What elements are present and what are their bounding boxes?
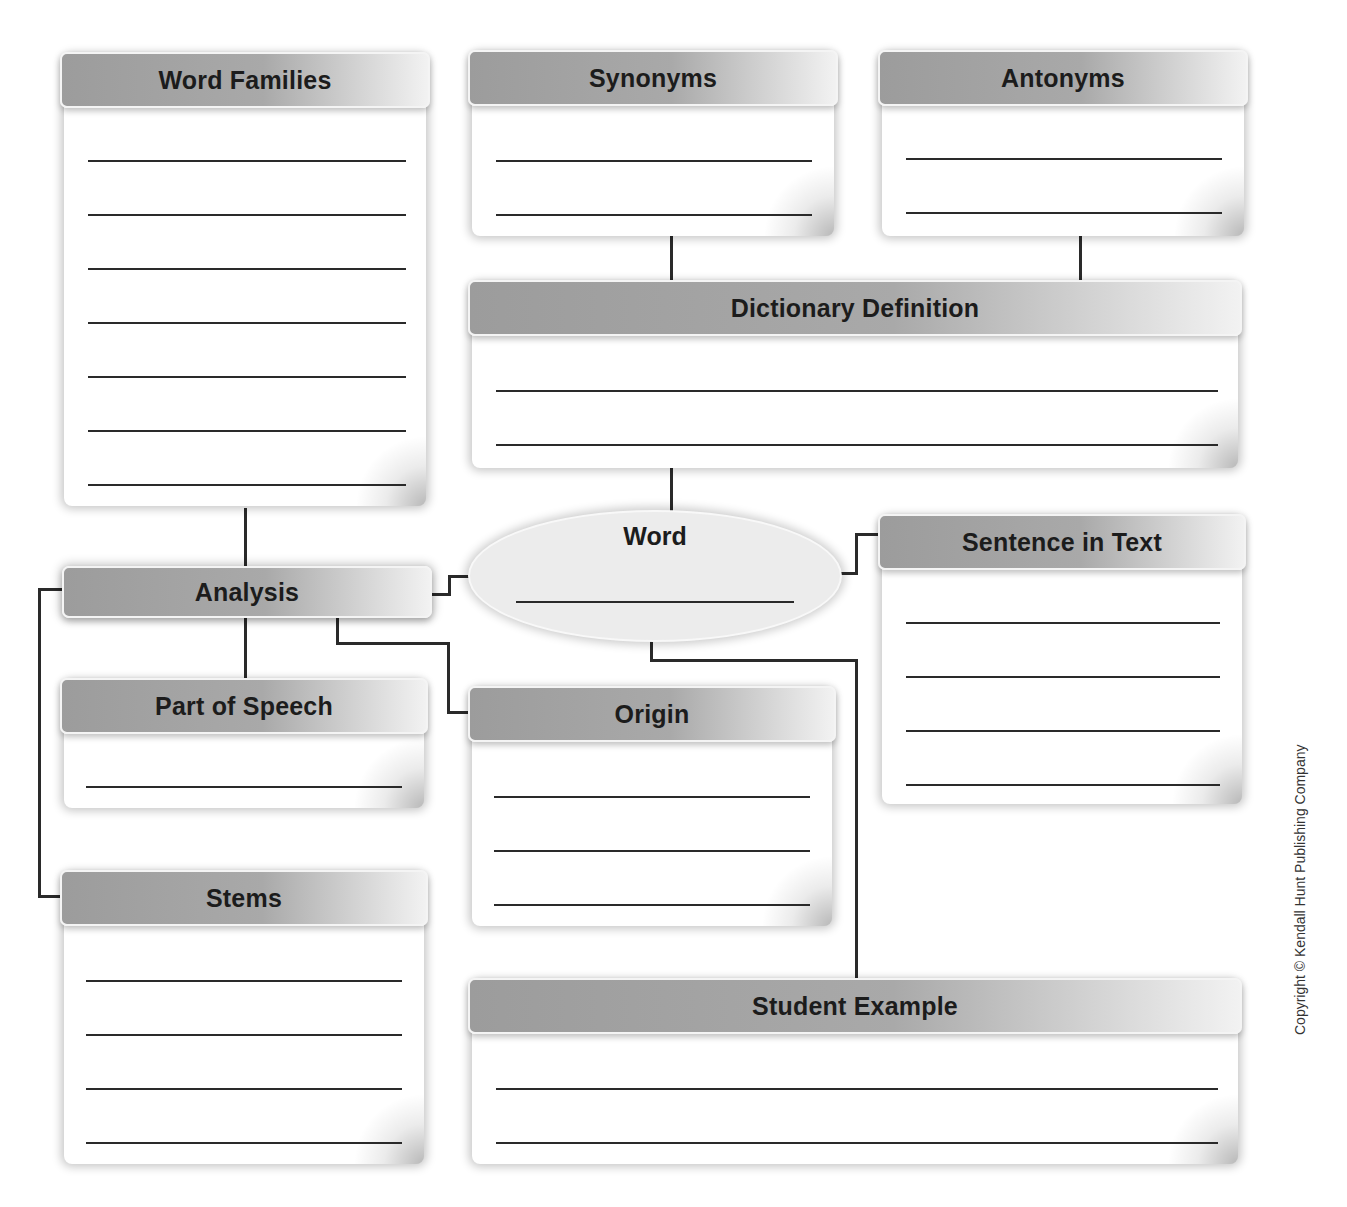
- write-line[interactable]: [86, 1142, 402, 1144]
- student-example-header: Student Example: [468, 978, 1242, 1034]
- write-line[interactable]: [496, 160, 812, 162]
- antonyms-box: Antonyms: [882, 54, 1244, 236]
- write-line[interactable]: [88, 214, 406, 216]
- antonyms-header: Antonyms: [878, 50, 1248, 106]
- synonyms-header: Synonyms: [468, 50, 838, 106]
- connector-analysis-origin-b: [336, 642, 450, 645]
- write-line[interactable]: [496, 444, 1218, 446]
- connector-synonyms-definition: [670, 236, 673, 282]
- write-line[interactable]: [906, 730, 1220, 732]
- write-line[interactable]: [496, 1142, 1218, 1144]
- write-line[interactable]: [906, 784, 1220, 786]
- connector-definition-word: [670, 468, 673, 512]
- analysis-header: Analysis: [62, 566, 432, 618]
- write-line[interactable]: [86, 1088, 402, 1090]
- stems-header: Stems: [60, 870, 428, 926]
- connector-analysis-stems-a: [38, 588, 62, 591]
- write-line[interactable]: [86, 980, 402, 982]
- copyright-notice: Copyright © Kendall Hunt Publishing Comp…: [1292, 745, 1308, 1035]
- connector-families-analysis: [244, 508, 247, 566]
- stems-box: Stems: [64, 874, 424, 1164]
- connector-analysis-stems-c: [38, 895, 62, 898]
- write-line[interactable]: [906, 158, 1222, 160]
- connector-word-sentence-b: [855, 533, 858, 575]
- write-line[interactable]: [86, 786, 402, 788]
- word-families-box: Word Families: [64, 56, 426, 506]
- origin-box: Origin: [472, 690, 832, 926]
- write-line[interactable]: [494, 796, 810, 798]
- analysis-box: Analysis: [62, 566, 432, 618]
- connector-analysis-word-c: [448, 575, 470, 578]
- connector-word-example-c: [855, 659, 858, 979]
- write-line[interactable]: [494, 904, 810, 906]
- write-line[interactable]: [86, 1034, 402, 1036]
- write-line[interactable]: [88, 484, 406, 486]
- part-of-speech-box: Part of Speech: [64, 682, 424, 808]
- origin-header: Origin: [468, 686, 836, 742]
- write-line[interactable]: [494, 850, 810, 852]
- write-line[interactable]: [906, 212, 1222, 214]
- write-line[interactable]: [496, 214, 812, 216]
- sentence-in-text-box: Sentence in Text: [882, 518, 1242, 804]
- write-line[interactable]: [88, 322, 406, 324]
- sentence-in-text-header: Sentence in Text: [878, 514, 1246, 570]
- write-line[interactable]: [496, 1088, 1218, 1090]
- connector-analysis-origin-a: [336, 618, 339, 644]
- write-line[interactable]: [88, 430, 406, 432]
- part-of-speech-header: Part of Speech: [60, 678, 428, 734]
- write-line[interactable]: [88, 268, 406, 270]
- word-title: Word: [470, 522, 840, 551]
- write-line[interactable]: [496, 390, 1218, 392]
- write-line[interactable]: [516, 601, 794, 603]
- word-families-header: Word Families: [60, 52, 430, 108]
- write-line[interactable]: [88, 376, 406, 378]
- connector-analysis-word-b: [448, 575, 451, 596]
- connector-antonyms-definition: [1079, 236, 1082, 282]
- student-example-box: Student Example: [472, 982, 1238, 1164]
- connector-word-example-b: [650, 659, 858, 662]
- connector-analysis-origin-c: [447, 642, 450, 714]
- connector-analysis-speech: [244, 618, 247, 678]
- write-line[interactable]: [906, 622, 1220, 624]
- synonyms-box: Synonyms: [472, 54, 834, 236]
- write-line[interactable]: [88, 160, 406, 162]
- word-ellipse: Word: [468, 510, 842, 642]
- write-line[interactable]: [906, 676, 1220, 678]
- dictionary-definition-header: Dictionary Definition: [468, 280, 1242, 336]
- dictionary-definition-box: Dictionary Definition: [472, 284, 1238, 468]
- connector-analysis-stems-b: [38, 588, 41, 898]
